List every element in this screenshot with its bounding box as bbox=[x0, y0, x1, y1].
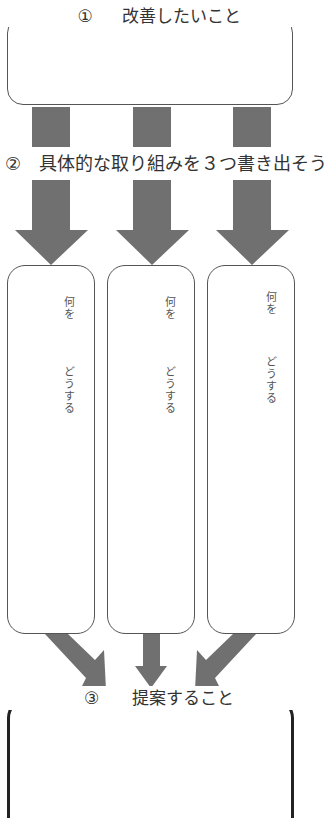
down-arrow-icon bbox=[135, 634, 167, 688]
step2-number: ② bbox=[5, 153, 21, 174]
how-label: どうする bbox=[60, 366, 76, 414]
step2-heading: ② 具体的な取り組みを３つ書き出そう bbox=[5, 152, 327, 176]
step3-label: 提案すること bbox=[124, 688, 242, 708]
down-arrow-icon bbox=[216, 180, 289, 265]
down-arrow-icon bbox=[15, 180, 88, 265]
connector-stub-2 bbox=[133, 107, 171, 147]
what-label: 何を bbox=[262, 291, 278, 315]
action-column-2[interactable]: 何を どうする bbox=[107, 265, 195, 634]
diagonal-arrow-right-icon bbox=[45, 634, 106, 690]
how-label: どうする bbox=[161, 366, 177, 414]
how-label: どうする bbox=[262, 356, 278, 404]
step3-number: ③ bbox=[76, 688, 107, 708]
improvement-box[interactable] bbox=[7, 17, 293, 105]
step2-label: 具体的な取り組みを３つ書き出そう bbox=[39, 153, 327, 174]
proposal-box[interactable] bbox=[7, 698, 294, 818]
what-label: 何を bbox=[161, 296, 177, 320]
action-column-1[interactable]: 何を どうする bbox=[7, 265, 95, 634]
diagonal-arrow-left-icon bbox=[195, 634, 256, 690]
connector-stub-1 bbox=[32, 107, 70, 147]
step3-heading: ③ 提案すること bbox=[0, 686, 318, 710]
connector-stub-3 bbox=[233, 107, 271, 147]
action-column-3[interactable]: 何を どうする bbox=[207, 265, 295, 634]
down-arrow-icon bbox=[116, 180, 189, 265]
what-label: 何を bbox=[60, 296, 76, 320]
